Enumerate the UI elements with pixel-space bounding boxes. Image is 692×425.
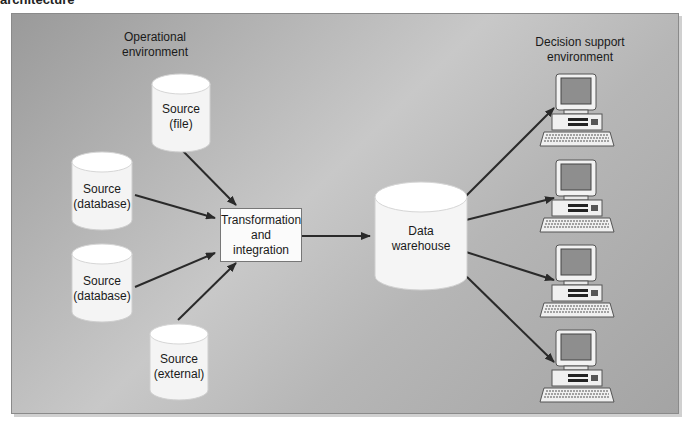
- source-external-cylinder: Source (external): [148, 322, 210, 402]
- workstation-4: [538, 328, 618, 410]
- source-label-line1: Source: [148, 352, 210, 367]
- desktop-computer-icon: [538, 158, 618, 236]
- source-label-line2: (database): [70, 197, 134, 212]
- arrow-db1-to-transform: [135, 195, 215, 218]
- source-label-line2: (external): [148, 367, 210, 382]
- source-database-1-cylinder: Source (database): [70, 150, 134, 232]
- source-label-line1: Source: [70, 274, 134, 289]
- source-database-2-cylinder: Source (database): [70, 242, 134, 324]
- source-label-line1: Source: [70, 182, 134, 197]
- transform-label-line2: and: [251, 228, 271, 243]
- warehouse-label-line2: warehouse: [373, 239, 469, 254]
- data-warehouse-label: Data warehouse: [373, 224, 469, 254]
- arrow-db2-to-transform: [135, 253, 215, 287]
- source-label-line2: (database): [70, 289, 134, 304]
- desktop-computer-icon: [538, 72, 618, 150]
- source-label-line2: (file): [150, 117, 212, 132]
- arrow-file-to-transform: [180, 148, 236, 205]
- transform-label-line3: integration: [233, 243, 289, 258]
- source-external-label: Source (external): [148, 352, 210, 382]
- workstation-3: [538, 243, 618, 325]
- source-database-1-label: Source (database): [70, 182, 134, 212]
- source-file-cylinder: Source (file): [150, 72, 212, 154]
- source-file-label: Source (file): [150, 102, 212, 132]
- source-database-2-label: Source (database): [70, 274, 134, 304]
- data-warehouse-cylinder: Data warehouse: [373, 180, 469, 292]
- source-label-line1: Source: [150, 102, 212, 117]
- workstation-1: [538, 72, 618, 154]
- warehouse-label-line1: Data: [373, 224, 469, 239]
- transformation-integration-box: Transformation and integration: [220, 208, 302, 262]
- workstation-2: [538, 158, 618, 240]
- transform-label-line1: Transformation: [221, 213, 301, 228]
- arrow-external-to-transform: [178, 263, 236, 320]
- desktop-computer-icon: [538, 243, 618, 321]
- desktop-computer-icon: [538, 328, 618, 406]
